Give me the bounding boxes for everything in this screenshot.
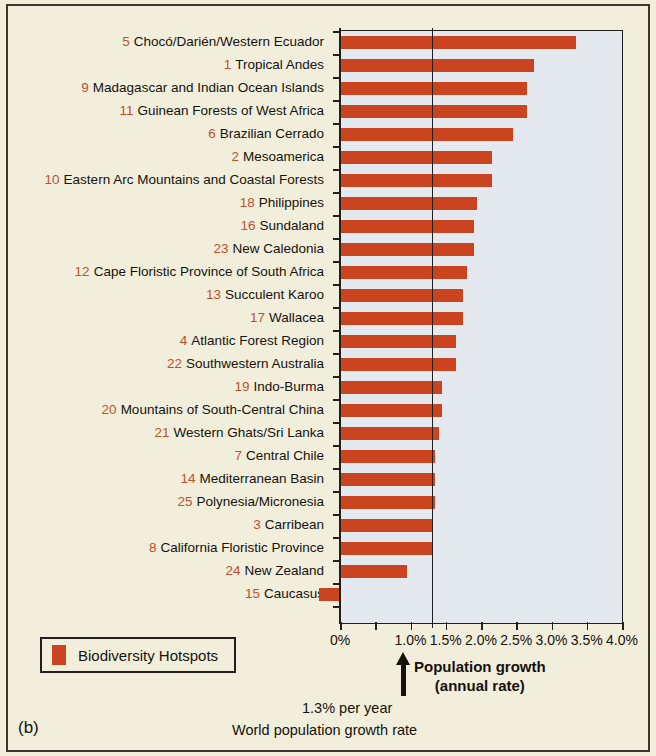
bar-row (340, 468, 622, 491)
panel-label: (b) (18, 718, 39, 738)
category-rank-number: 12 (75, 264, 90, 279)
world-average-reference-line (432, 28, 434, 628)
bar-row (340, 353, 622, 376)
category-rank-number: 4 (180, 333, 188, 348)
bar (340, 243, 474, 256)
bar-row (340, 192, 622, 215)
category-rank-number: 18 (240, 195, 255, 210)
category-label-list: 5Chocó/Darién/Western Ecuador1Tropical A… (10, 30, 332, 605)
figure-border-top (6, 4, 650, 6)
category-rank-number: 7 (234, 448, 242, 463)
figure-panel: 5Chocó/Darién/Western Ecuador1Tropical A… (0, 0, 656, 756)
bar-row (340, 261, 622, 284)
bar-row (340, 215, 622, 238)
zero-axis-line (339, 28, 341, 624)
category-label-row: 11Guinean Forests of West Africa (10, 99, 332, 122)
category-label-row: 13Succulent Karoo (10, 283, 332, 306)
bar (340, 450, 435, 463)
bar-row (340, 146, 622, 169)
x-axis-tick (587, 622, 589, 630)
bar (340, 220, 474, 233)
x-axis-tick (622, 622, 624, 630)
category-rank-number: 2 (231, 149, 239, 164)
category-label-row: 9Madagascar and Indian Ocean Islands (10, 76, 332, 99)
category-label-row: 23New Caledonia (10, 237, 332, 260)
category-label-row: 5Chocó/Darién/Western Ecuador (10, 30, 332, 53)
bar (340, 105, 527, 118)
category-label-row: 4Atlantic Forest Region (10, 329, 332, 352)
category-label-row: 10Eastern Arc Mountains and Coastal Fore… (10, 168, 332, 191)
category-name: Cape Floristic Province of South Africa (94, 264, 324, 279)
bar-row (340, 54, 622, 77)
category-name: Mountains of South-Central China (121, 402, 324, 417)
x-axis-tick-label: 0% (330, 632, 350, 648)
figure-border-right (648, 4, 650, 752)
bar (340, 36, 576, 49)
bar (340, 289, 463, 302)
x-axis-tick-label: 4.0% (606, 632, 638, 648)
category-label-row: 14Mediterranean Basin (10, 467, 332, 490)
x-axis-tick-label: 1.5% (430, 632, 462, 648)
x-axis-tick (340, 622, 342, 630)
bar-row (340, 31, 622, 54)
bar (340, 151, 492, 164)
category-rank-number: 1 (224, 57, 232, 72)
x-axis-caption-line1: Population growth (414, 658, 546, 677)
reference-value-label: 1.3% per year (302, 700, 392, 716)
category-label-row: 25Polynesia/Micronesia (10, 490, 332, 513)
bar-row (340, 376, 622, 399)
category-label-row: 20Mountains of South-Central China (10, 398, 332, 421)
bar-row (340, 100, 622, 123)
category-rank-number: 14 (180, 471, 195, 486)
category-rank-number: 10 (45, 172, 60, 187)
reference-arrow-icon (396, 652, 410, 696)
bar (340, 266, 467, 279)
category-label-row: 21Western Ghats/Sri Lanka (10, 421, 332, 444)
bar (340, 335, 456, 348)
x-axis-tick (481, 622, 483, 630)
plot-area (340, 30, 623, 624)
bar-row (340, 560, 622, 583)
bar-row (340, 307, 622, 330)
bar (340, 519, 432, 532)
category-label-row: 1Tropical Andes (10, 53, 332, 76)
bar-row (340, 445, 622, 468)
bar-row (340, 330, 622, 353)
bar (340, 404, 442, 417)
bar-row (340, 238, 622, 261)
bar (340, 358, 456, 371)
bar (340, 59, 534, 72)
category-label-row: 2Mesoamerica (10, 145, 332, 168)
category-rank-number: 6 (208, 126, 216, 141)
bar-row (340, 514, 622, 537)
x-axis-tick (446, 622, 448, 630)
category-label-row: 3Carribean (10, 513, 332, 536)
category-name: Chocó/Darién/Western Ecuador (134, 34, 324, 49)
bar-row (340, 583, 622, 606)
bar-row (340, 399, 622, 422)
category-rank-number: 3 (253, 517, 261, 532)
x-axis-tick-label: 1.0% (395, 632, 427, 648)
x-axis-tick (411, 622, 413, 630)
category-rank-number: 25 (177, 494, 192, 509)
category-label-row: 24New Zealand (10, 559, 332, 582)
bar-row (340, 169, 622, 192)
category-rank-number: 23 (213, 241, 228, 256)
bar (340, 427, 439, 440)
reference-caption-label: World population growth rate (232, 722, 417, 738)
x-axis-tick (375, 622, 377, 630)
bar (340, 128, 513, 141)
x-axis-tick-label: 3.5% (571, 632, 603, 648)
bar (340, 473, 435, 486)
x-axis-tick (552, 622, 554, 630)
bar (340, 381, 442, 394)
arrow-shaft (401, 662, 406, 696)
category-rank-number: 17 (250, 310, 265, 325)
category-label-row: 6Brazilian Cerrado (10, 122, 332, 145)
legend: Biodiversity Hotspots (40, 637, 236, 673)
category-label-row: 15Caucasus (10, 582, 332, 605)
x-axis-tick-label: 2.5% (500, 632, 532, 648)
category-name: Eastern Arc Mountains and Coastal Forest… (64, 172, 324, 187)
category-rank-number: 13 (206, 287, 221, 302)
x-axis-caption-line2: (annual rate) (414, 677, 546, 696)
